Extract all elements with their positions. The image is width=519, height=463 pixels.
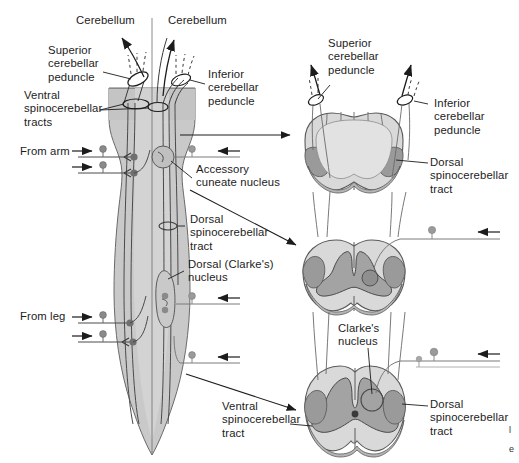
- figure-caption-line1: l: [509, 425, 511, 436]
- dst-cervical-right: [383, 256, 405, 288]
- label-from-arm: From arm: [20, 145, 70, 158]
- dst-lumbar-right: [383, 390, 405, 424]
- dst-cervical-left: [303, 256, 325, 288]
- label-clarkes-nucleus: Clarke's nucleus: [338, 322, 379, 349]
- label-dorsal-spinocerebellar-tract-medulla: Dorsal spinocerebellar tract: [430, 156, 508, 196]
- label-dorsal-clarkes-nucleus: Dorsal (Clarke's) nucleus: [188, 258, 274, 285]
- label-inferior-cerebellar-peduncle-left: Inferior cerebellar peduncle: [208, 68, 259, 108]
- label-superior-cerebellar-peduncle-left: Superior cerebellar peduncle: [48, 44, 99, 84]
- clarkes-nucleus-cervical: [362, 270, 378, 286]
- label-cerebellum-left: Cerebellum: [76, 14, 135, 27]
- label-ventral-spinocerebellar-tract-bottom: Ventral spinocerebellar tract: [222, 400, 300, 440]
- dst-lumbar-left: [305, 390, 327, 424]
- superior-peduncle-ellipse-right-panel: [307, 93, 325, 108]
- label-dorsal-spinocerebellar-tract-left: Dorsal spinocerebellar tract: [190, 213, 268, 253]
- label-cerebellum-right: Cerebellum: [168, 14, 227, 27]
- section-medulla: [305, 65, 420, 193]
- section-cervical-cord: [303, 192, 500, 315]
- label-superior-cerebellar-peduncle-right: Superior cerebellar peduncle: [328, 37, 379, 77]
- label-inferior-cerebellar-peduncle-right: Inferior cerebellar peduncle: [434, 97, 485, 137]
- figure-spinocerebellar-tracts: Cerebellum Cerebellum Superior cerebella…: [0, 0, 519, 463]
- label-accessory-cuneate-nucleus: Accessory cuneate nucleus: [196, 163, 280, 190]
- accessory-cuneate-nucleus-marker: [152, 146, 174, 168]
- figure-caption-line2: e: [509, 444, 514, 455]
- label-ventral-spinocerebellar-tracts: Ventral spinocerebellar tracts: [24, 89, 102, 129]
- label-dorsal-spinocerebellar-tract-lumbar: Dorsal spinocerebellar tract: [430, 398, 508, 438]
- clarkes-nucleus-column: [156, 271, 175, 328]
- label-from-leg: From leg: [20, 310, 65, 323]
- inferior-peduncle-ellipse-right-panel: [396, 93, 414, 107]
